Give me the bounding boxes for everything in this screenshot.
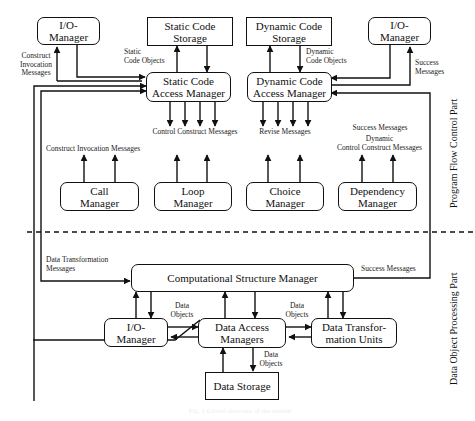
data-transformation-units: Data Transfor- mation Units [311,318,397,348]
success-messages-mid-label: Success Messages [345,124,415,133]
control-construct-messages-label: Control Construct Messages [140,128,250,137]
data-objects-label-1: Data Objects [166,302,198,319]
connector [34,86,145,401]
call-manager: Call Manager [60,182,139,211]
computational-structure-manager: Computational Structure Manager [131,264,354,292]
dynamic-control-construct-messages-label: Dynamic Control Construct Messages [327,135,432,152]
dynamic-code-storage: Dynamic Code Storage [246,17,332,46]
revise-messages-label: Revise Messages [250,128,320,137]
data-storage: Data Storage [205,372,279,400]
construct-invocation-messages-mid-label: Construct Invocation Messages [46,145,161,154]
static-code-access-manager: Static Code Access Manager [146,72,231,102]
dynamic-code-objects-label: Dynamic Code Objects [306,48,362,65]
static-code-objects-label: Static Code Objects [124,48,176,65]
io-manager-top-left: I/O- Manager [37,17,100,45]
data-access-managers: Data Access Managers [198,318,286,348]
loop-manager: Loop Manager [154,182,232,211]
io-manager-top-right: I/O- Manager [368,17,431,45]
data-objects-label-2: Data Objects [281,302,313,319]
section-label-data-object-processing: Data Object Processing Part [448,273,459,385]
section-label-program-flow-control: Program Flow Control Part [448,99,459,208]
dependency-manager: Dependency Manager [338,182,417,211]
dynamic-code-access-manager: Dynamic Code Access Manager [247,72,332,102]
data-objects-label-3: Data Objects [255,351,287,368]
static-code-storage: Static Code Storage [147,17,233,46]
success-messages-top-right-label: Success Messages [415,59,455,76]
success-messages-bottom-label: Success Messages [361,265,431,274]
choice-manager: Choice Manager [246,182,324,211]
data-transformation-messages-label: Data Transformation Messages [46,256,126,273]
figure-caption: Fig. 1 Global structure of the system [120,407,360,413]
construct-invocation-messages-left-label: Construct Invocation Messages [16,52,56,78]
io-manager-bottom: I/O- Manager [104,318,168,347]
